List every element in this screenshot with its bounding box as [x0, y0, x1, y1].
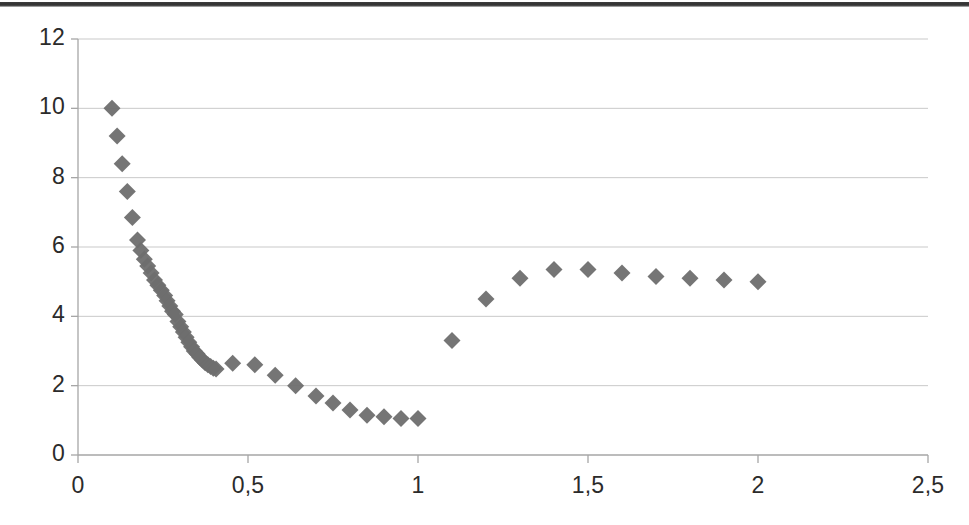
- data-point-marker: [246, 356, 263, 373]
- data-point-marker: [119, 183, 136, 200]
- data-point-marker: [114, 155, 131, 172]
- data-point-marker: [614, 265, 631, 282]
- data-point-marker: [267, 367, 284, 384]
- data-points-group: [104, 100, 767, 427]
- y-axis-tick-label: 8: [52, 163, 65, 190]
- data-point-marker: [716, 271, 733, 288]
- x-axis-tick-label: 2,5: [888, 472, 968, 499]
- data-point-marker: [342, 401, 359, 418]
- data-point-marker: [478, 291, 495, 308]
- data-point-marker: [308, 388, 325, 405]
- data-point-marker: [124, 209, 141, 226]
- data-point-marker: [287, 377, 304, 394]
- data-point-marker: [376, 408, 393, 425]
- y-axis-tick-label: 0: [52, 440, 65, 467]
- y-axis-tick-label: 4: [52, 301, 65, 328]
- axis-ticks-group: [71, 39, 928, 463]
- x-axis-tick-label: 1,5: [548, 472, 628, 499]
- data-point-marker: [224, 355, 241, 372]
- x-axis-tick-label: 0: [38, 472, 118, 499]
- x-axis-tick-label: 1: [378, 472, 458, 499]
- x-axis-tick-label: 2: [718, 472, 798, 499]
- data-point-marker: [580, 261, 597, 278]
- x-axis-tick-label: 0,5: [208, 472, 288, 499]
- data-point-marker: [682, 270, 699, 287]
- data-point-marker: [410, 410, 427, 427]
- data-point-marker: [512, 270, 529, 287]
- data-point-marker: [104, 100, 121, 117]
- plot-canvas: [0, 0, 969, 525]
- y-axis-tick-label: 10: [39, 93, 65, 120]
- scatter-chart-figure: 02468101200,511,522,5: [0, 0, 969, 525]
- data-point-marker: [109, 128, 126, 145]
- data-point-marker: [546, 261, 563, 278]
- y-axis-tick-label: 2: [52, 371, 65, 398]
- y-axis-tick-label: 6: [52, 232, 65, 259]
- data-point-marker: [393, 410, 410, 427]
- data-point-marker: [359, 407, 376, 424]
- gridlines-group: [78, 39, 928, 386]
- y-axis-tick-label: 12: [39, 24, 65, 51]
- data-point-marker: [444, 332, 461, 349]
- data-point-marker: [325, 395, 342, 412]
- data-point-marker: [648, 268, 665, 285]
- data-point-marker: [750, 273, 767, 290]
